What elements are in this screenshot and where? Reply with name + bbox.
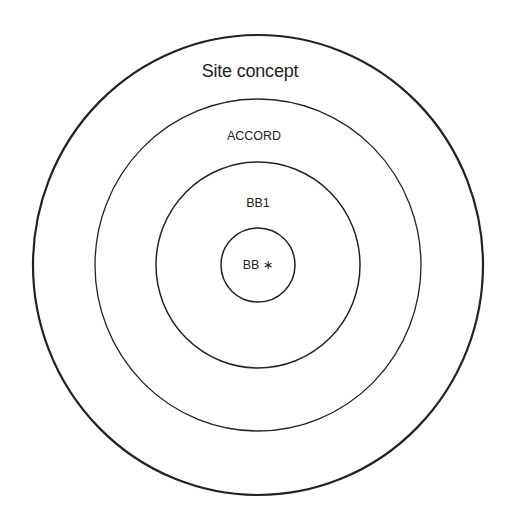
label-bb-star: BB ∗ [243,259,274,272]
label-accord: ACCORD [227,130,281,143]
label-site-concept: Site concept [202,62,299,80]
label-bb1: BB1 [246,197,270,210]
